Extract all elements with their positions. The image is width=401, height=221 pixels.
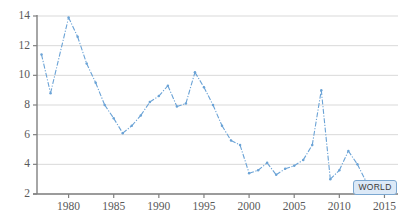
x-tick-label-2005: 2005 [274, 201, 314, 213]
data-point [275, 173, 278, 176]
data-point [311, 144, 314, 147]
series-segment [105, 105, 114, 118]
series-segment [123, 126, 132, 133]
line-chart: 2468101214 19801985199019952000200520102… [0, 0, 401, 221]
series-world-markers [40, 16, 385, 192]
series-segment [69, 17, 78, 36]
series-segment [303, 145, 312, 160]
series-segment [51, 17, 69, 93]
chart-plot-area [0, 0, 401, 221]
data-point [203, 86, 206, 89]
data-point [49, 92, 52, 95]
data-point [221, 125, 224, 128]
y-tick-label-6: 6 [2, 129, 30, 141]
data-point [185, 102, 188, 105]
data-point [266, 162, 269, 165]
data-point [194, 71, 197, 74]
data-point [121, 132, 124, 135]
series-segment [339, 151, 348, 170]
series-segment [78, 37, 87, 64]
y-tick-label-8: 8 [2, 99, 30, 111]
series-segment [231, 141, 240, 145]
data-point [239, 144, 242, 147]
data-point [356, 163, 359, 166]
series-segment [249, 170, 258, 173]
data-point [149, 101, 152, 104]
series-segment [195, 72, 204, 87]
series-segment [186, 72, 195, 103]
series-segment [213, 105, 222, 126]
data-point [230, 139, 233, 142]
series-end-label-world[interactable]: WORLD [353, 180, 396, 195]
series-segment [87, 63, 96, 82]
series-segment [285, 166, 294, 169]
data-point [67, 16, 70, 19]
series-segment [159, 86, 168, 96]
data-point [347, 150, 350, 153]
data-point [338, 169, 341, 172]
series-segment [42, 55, 51, 94]
series-segment [132, 115, 141, 125]
series-segment [96, 83, 105, 105]
data-point [284, 168, 287, 171]
data-point [320, 89, 323, 92]
y-tick-label-14: 14 [2, 10, 30, 22]
data-point [212, 104, 215, 107]
series-segment [330, 170, 339, 179]
data-point [293, 165, 296, 168]
data-point [140, 114, 143, 117]
data-point [248, 172, 251, 175]
x-tick-label-1980: 1980 [49, 201, 89, 213]
y-tick-label-10: 10 [2, 69, 30, 81]
data-point [329, 178, 332, 181]
data-point [112, 117, 115, 120]
data-point [257, 169, 260, 172]
data-point [103, 104, 106, 107]
data-point [167, 84, 170, 87]
data-point [85, 62, 88, 65]
series-segment [114, 118, 123, 133]
x-tick-label-2000: 2000 [229, 201, 269, 213]
data-point [76, 36, 79, 39]
data-point [131, 125, 134, 128]
x-tick-label-1985: 1985 [94, 201, 134, 213]
series-segment [312, 90, 321, 145]
series-segment [240, 145, 249, 173]
data-point [302, 159, 305, 162]
series-segment [294, 160, 303, 166]
series-segment [222, 126, 231, 141]
series-segment [141, 102, 150, 115]
x-tick-label-1990: 1990 [139, 201, 179, 213]
x-tick-label-2015: 2015 [364, 201, 401, 213]
data-point [176, 105, 179, 108]
series-segment [168, 86, 177, 107]
data-point [94, 82, 97, 85]
series-segment [150, 96, 159, 102]
data-point [40, 53, 43, 56]
series-segment [276, 169, 285, 175]
x-tick-label-2010: 2010 [319, 201, 359, 213]
gridlines [37, 16, 398, 194]
x-tick-label-1995: 1995 [184, 201, 224, 213]
y-tick-label-2: 2 [2, 188, 30, 200]
series-segment [204, 87, 213, 105]
data-point [158, 95, 161, 98]
series-segment [348, 151, 357, 164]
y-tick-label-12: 12 [2, 40, 30, 52]
y-tick-label-4: 4 [2, 158, 30, 170]
